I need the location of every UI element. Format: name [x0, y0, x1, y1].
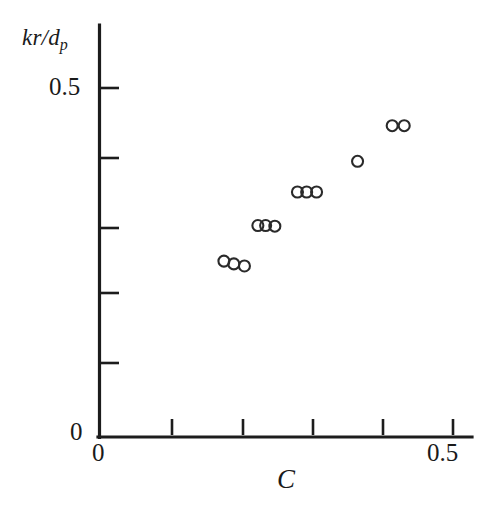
y-axis-title: kr/dp: [22, 26, 68, 53]
x-tick-label-0.5: 0.5: [427, 440, 458, 465]
data-point: [399, 120, 410, 131]
y-axis-title-main: kr/d: [22, 25, 60, 50]
scatter-plot-figure: kr/dp C 0.5 0 0 0.5: [0, 0, 497, 508]
y-tick-label-0.5: 0.5: [49, 74, 80, 99]
data-points-group: [218, 120, 409, 271]
data-point: [228, 258, 239, 269]
y-tick-label-0: 0: [70, 419, 83, 444]
data-point: [387, 120, 398, 131]
x-tick-label-0: 0: [92, 440, 105, 465]
y-axis-ticks-group: [101, 88, 119, 363]
axes-group: [98, 25, 472, 438]
data-point: [239, 260, 250, 271]
y-axis-title-subscript: p: [60, 36, 68, 53]
x-axis-ticks-group: [172, 419, 453, 435]
data-point: [352, 156, 363, 167]
x-axis-title: C: [277, 466, 295, 493]
